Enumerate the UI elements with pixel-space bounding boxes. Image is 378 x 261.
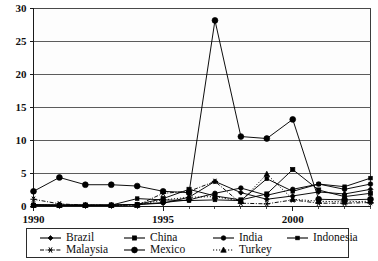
y-tick-label: 20 — [16, 68, 28, 80]
data-point — [132, 236, 136, 240]
legend-label: Brazil — [66, 231, 94, 243]
data-point — [108, 182, 114, 188]
data-point — [368, 182, 373, 187]
x-axis: 199019952000 — [23, 207, 371, 225]
data-point — [369, 176, 373, 180]
data-point — [291, 190, 295, 194]
chart-legend: BrazilChinaIndiaIndonesiaMalaysiaMexicoT… — [27, 229, 358, 258]
data-point — [290, 116, 296, 122]
legend-label: Indonesia — [313, 231, 358, 243]
chart-figure: 051015202530 199019952000 BrazilChinaInd… — [0, 0, 378, 261]
x-tick-label: 1990 — [23, 213, 46, 225]
data-point — [368, 191, 372, 195]
legend-label: China — [150, 231, 177, 243]
data-point — [160, 188, 166, 194]
data-point — [317, 182, 321, 186]
data-point — [212, 17, 218, 23]
legend-label: Malaysia — [66, 243, 108, 256]
y-axis: 051015202530 — [16, 2, 34, 212]
data-point — [291, 167, 295, 171]
legend-label: India — [239, 231, 263, 243]
y-tick-label: 25 — [16, 35, 28, 47]
legend-label: Mexico — [150, 243, 185, 255]
data-point — [239, 186, 244, 191]
data-point — [132, 247, 138, 253]
y-tick-label: 0 — [21, 200, 27, 212]
data-point — [317, 188, 321, 192]
line-chart: 051015202530 199019952000 BrazilChinaInd… — [0, 0, 378, 261]
x-tick-label: 2000 — [282, 213, 305, 225]
y-tick-label: 15 — [16, 101, 28, 113]
data-point — [135, 197, 139, 201]
data-point — [343, 185, 347, 189]
data-point — [264, 136, 270, 142]
data-point — [221, 236, 226, 241]
data-point — [265, 193, 270, 198]
data-point — [238, 134, 244, 140]
data-point — [296, 236, 300, 240]
y-tick-label: 5 — [21, 167, 27, 179]
data-point — [57, 175, 63, 181]
data-point — [265, 177, 269, 181]
x-tick-label: 1995 — [152, 213, 175, 225]
data-point — [31, 188, 37, 194]
data-point — [134, 183, 140, 189]
y-tick-label: 30 — [16, 2, 28, 14]
data-point — [82, 182, 88, 188]
legend-label: Turkey — [239, 243, 272, 256]
y-tick-label: 10 — [16, 134, 28, 146]
